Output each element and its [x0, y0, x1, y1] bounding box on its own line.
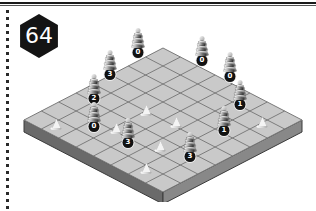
- tower-ring: [224, 69, 237, 72]
- tower-ring: [234, 97, 247, 100]
- pawn-piece[interactable]: [111, 123, 122, 134]
- pawn-cone: [172, 117, 180, 126]
- left-dotted-margin: [6, 10, 9, 210]
- tower-number-badge: 0: [89, 121, 100, 132]
- tower-number-badge: 3: [123, 137, 134, 148]
- tower-piece[interactable]: 3: [184, 132, 197, 162]
- tower-body: [104, 50, 117, 70]
- tower-piece[interactable]: 1: [218, 106, 231, 136]
- tower-piece[interactable]: 3: [104, 50, 117, 80]
- tower-piece[interactable]: 2: [88, 74, 101, 104]
- tower-ring: [218, 123, 231, 126]
- tower-body: [88, 74, 101, 94]
- tower-number-badge: 0: [197, 55, 208, 66]
- tower-number-badge: 1: [235, 99, 246, 110]
- tower-number-badge: 3: [105, 69, 116, 80]
- tower-ring: [104, 67, 117, 70]
- tower-body: [132, 28, 145, 48]
- pawn-cone: [112, 123, 120, 132]
- pawn-piece[interactable]: [141, 105, 152, 116]
- tower-body: [88, 102, 101, 122]
- top-divider-line-secondary: [0, 5, 316, 6]
- tower-ring: [88, 91, 101, 94]
- pawn-cone: [52, 119, 60, 128]
- tower-number-badge: 0: [133, 47, 144, 58]
- tower-body: [234, 80, 247, 100]
- tower-body: [218, 106, 231, 126]
- pawn-piece[interactable]: [141, 163, 152, 174]
- tower-body: [184, 132, 197, 152]
- tower-number-badge: 1: [219, 125, 230, 136]
- pawn-cone: [156, 141, 164, 150]
- tower-ring: [196, 53, 209, 56]
- tower-ring: [122, 135, 135, 138]
- tower-piece[interactable]: 0: [132, 28, 145, 58]
- page-root: 64: [0, 0, 316, 211]
- tower-number-badge: 3: [185, 151, 196, 162]
- tower-piece[interactable]: 1: [234, 80, 247, 110]
- tower-body: [122, 118, 135, 138]
- pieces-layer: 0003210133: [18, 32, 308, 202]
- tower-body: [196, 36, 209, 56]
- tower-piece[interactable]: 0: [88, 102, 101, 132]
- pawn-cone: [258, 117, 266, 126]
- pawn-piece[interactable]: [51, 119, 62, 130]
- pawn-cone: [142, 105, 150, 114]
- top-divider-line: [0, 2, 316, 4]
- pawn-piece[interactable]: [155, 141, 166, 152]
- tower-ring: [132, 45, 145, 48]
- tower-piece[interactable]: 3: [122, 118, 135, 148]
- pawn-piece[interactable]: [171, 117, 182, 128]
- board-stage: 0003210133: [18, 32, 308, 202]
- pawn-cone: [142, 163, 150, 172]
- tower-ring: [184, 149, 197, 152]
- tower-piece[interactable]: 0: [224, 52, 237, 82]
- tower-body: [224, 52, 237, 72]
- board-container: 0003210133: [18, 32, 308, 202]
- tower-piece[interactable]: 0: [196, 36, 209, 66]
- tower-ring: [88, 119, 101, 122]
- pawn-piece[interactable]: [257, 117, 268, 128]
